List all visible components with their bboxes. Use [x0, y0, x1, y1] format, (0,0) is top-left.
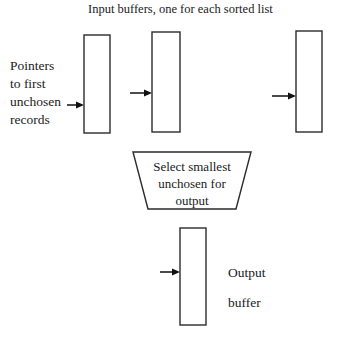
diagram-canvas: Input buffers, one for each sorted list …	[0, 0, 338, 340]
input-buffer-2	[152, 32, 180, 132]
pointer-arrow-1	[67, 102, 84, 109]
pointer-arrow-2	[130, 90, 152, 97]
selector-label: Select smallest unchosen for output	[142, 158, 242, 209]
output-arrow	[160, 269, 180, 276]
pointers-label: Pointers to first unchosen records	[10, 57, 61, 129]
diagram-title: Input buffers, one for each sorted list	[88, 2, 273, 17]
output-buffer-label: Output buffer	[228, 258, 266, 318]
input-buffer-1	[84, 35, 110, 133]
input-buffer-3	[296, 31, 322, 132]
output-buffer	[180, 228, 206, 325]
pointer-arrow-3	[272, 93, 296, 100]
